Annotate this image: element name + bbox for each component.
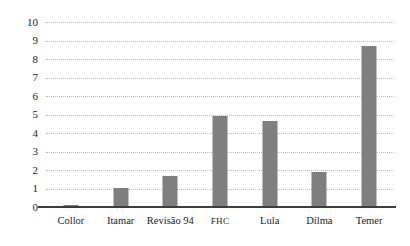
- y-tick-label: 1: [12, 183, 38, 194]
- x-label-fhc: FHC: [211, 214, 229, 228]
- bar-itamar[interactable]: [113, 188, 128, 207]
- x-label-temer: Temer: [356, 214, 383, 228]
- y-tick-label: 4: [12, 128, 38, 139]
- y-tick-label: 6: [12, 91, 38, 102]
- bar-slot-itamar: [96, 22, 146, 207]
- y-axis: 10 9 8 7 6 5 4 3 2 1 0: [8, 0, 38, 246]
- bar-fhc[interactable]: [212, 116, 227, 207]
- bar-slot-lula: [245, 22, 295, 207]
- y-tick-label: 5: [12, 109, 38, 120]
- y-tick-label: 0: [12, 202, 38, 213]
- y-tick-label: 9: [12, 35, 38, 46]
- x-label-itamar: Itamar: [107, 214, 134, 228]
- bar-slot-collor: [46, 22, 96, 207]
- y-tick-label: 3: [12, 146, 38, 157]
- x-label-collor: Collor: [57, 214, 84, 228]
- bar-temer[interactable]: [362, 46, 377, 207]
- x-axis: Collor Itamar Revisão 94 FHC Lula Dilma …: [46, 214, 394, 236]
- bar-lula[interactable]: [262, 121, 277, 207]
- bar-slot-revisao94: [145, 22, 195, 207]
- y-tick-label: 8: [12, 54, 38, 65]
- bar-slot-fhc: [195, 22, 245, 207]
- y-tick-label: 2: [12, 165, 38, 176]
- x-axis-line: [38, 206, 396, 208]
- bar-dilma[interactable]: [312, 172, 327, 207]
- bar-chart: 10 9 8 7 6 5 4 3 2 1 0: [0, 0, 410, 246]
- bar-series: [46, 22, 394, 207]
- bar-slot-temer: [344, 22, 394, 207]
- x-label-revisao-94: Revisão 94: [147, 214, 194, 228]
- bar-slot-dilma: [295, 22, 345, 207]
- y-tick-label: 10: [12, 17, 38, 28]
- x-label-lula: Lula: [260, 214, 279, 228]
- y-tick-label: 7: [12, 72, 38, 83]
- x-label-dilma: Dilma: [306, 214, 332, 228]
- bar-revisao-94[interactable]: [163, 176, 178, 207]
